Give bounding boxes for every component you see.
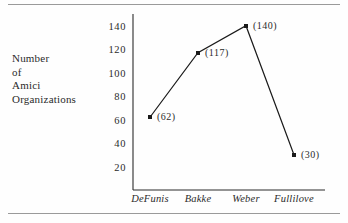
y-tick-label: 60 [100,114,126,125]
data-point-label: (117) [205,47,229,58]
data-point-label: (62) [157,111,176,122]
data-point-label: (30) [301,149,320,160]
data-point-marker [148,115,152,119]
data-point-marker [196,51,200,55]
y-tick-label: 80 [100,91,126,102]
chart-figure: Number of Amici Organizations 2040608010… [0,0,348,223]
y-tick-label: 140 [100,20,126,31]
data-point-marker [292,153,296,157]
series-line [150,26,294,155]
plot-area: 20406080100120140 DeFunisBakkeWeberFulli… [0,0,348,223]
data-point-marker [244,24,248,28]
x-category-label-defunis: DeFunis [131,193,169,204]
data-point-label: (140) [253,20,277,31]
x-category-label-weber: Weber [232,193,259,204]
x-category-label-bakke: Bakke [185,193,212,204]
y-tick-label: 100 [100,67,126,78]
y-tick-label: 120 [100,44,126,55]
y-tick-label: 40 [100,138,126,149]
y-tick-label: 20 [100,161,126,172]
x-category-label-fullilove: Fullilove [274,193,314,204]
